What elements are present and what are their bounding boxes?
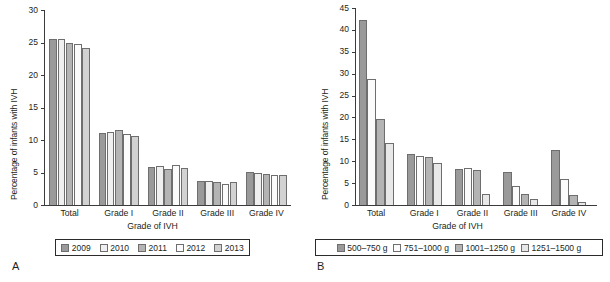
- y-tick-label: 0: [333, 201, 349, 209]
- bar: [473, 170, 481, 205]
- x-category-label: Total: [352, 208, 400, 218]
- bar: [156, 166, 164, 205]
- bar: [205, 181, 213, 205]
- legend-label: 2013: [225, 243, 244, 253]
- bar: [569, 195, 577, 205]
- bar: [66, 43, 74, 205]
- figure-two-panel-bar-charts: Percentage of infants with IVH 051015202…: [0, 0, 610, 282]
- bar: [503, 172, 511, 205]
- bar: [578, 202, 586, 205]
- bar: [131, 136, 139, 205]
- plot-area-a: [45, 10, 291, 205]
- bar: [164, 169, 172, 205]
- bar-group: [455, 8, 490, 205]
- bar: [367, 79, 375, 205]
- bar: [246, 172, 254, 205]
- y-tick-label: 30: [22, 6, 38, 14]
- legend-label: 2011: [149, 243, 167, 253]
- bar: [512, 186, 520, 205]
- legend-item: 1001–1250 g: [455, 243, 515, 253]
- bar: [521, 194, 529, 205]
- y-tick-label: 5: [333, 179, 349, 187]
- legend-label: 1001–1250 g: [465, 243, 515, 253]
- bar: [482, 194, 490, 205]
- legend-swatch: [455, 244, 463, 252]
- y-tick-label: 20: [22, 71, 38, 79]
- y-tick-label: 15: [333, 135, 349, 143]
- bar: [385, 143, 393, 205]
- legend-swatch: [100, 244, 108, 252]
- bar: [99, 133, 107, 205]
- legend-item: 2011: [138, 243, 167, 253]
- bar: [58, 39, 66, 205]
- x-category-label: Grade II: [448, 208, 496, 218]
- x-category-label: Grade III: [193, 208, 242, 218]
- bar-group: [407, 8, 442, 205]
- bar: [181, 168, 189, 205]
- legend-swatch: [61, 244, 69, 252]
- legend-swatch: [138, 244, 146, 252]
- x-category-label: Total: [45, 208, 94, 218]
- x-axis-line-b: [355, 205, 597, 206]
- bar: [416, 156, 424, 205]
- bar: [551, 150, 559, 205]
- panel-a: Percentage of infants with IVH 051015202…: [0, 0, 305, 282]
- bar: [49, 39, 57, 205]
- legend-label: 2012: [186, 243, 205, 253]
- x-category-label: Grade II: [143, 208, 192, 218]
- bar-group: [197, 10, 237, 205]
- x-axis-line-a: [44, 205, 291, 206]
- bar: [82, 48, 90, 205]
- plot-area-b: [356, 8, 597, 205]
- bar: [148, 167, 156, 205]
- legend-item: 2012: [176, 243, 205, 253]
- y-tick-label: 40: [333, 25, 349, 33]
- legend-item: 2010: [100, 243, 129, 253]
- y-tick-label: 0: [22, 201, 38, 209]
- bar: [279, 175, 287, 205]
- bar: [359, 20, 367, 205]
- x-category-label: Grade IV: [242, 208, 291, 218]
- bar: [376, 119, 384, 205]
- bar: [530, 199, 538, 205]
- x-category-label: Grade IV: [545, 208, 593, 218]
- bar: [425, 157, 433, 205]
- legend-swatch: [521, 244, 529, 252]
- bar-group: [551, 8, 586, 205]
- legend-item: 751–1000 g: [393, 243, 448, 253]
- legend-swatch: [337, 244, 345, 252]
- legend-label: 2010: [110, 243, 129, 253]
- bar: [123, 134, 131, 205]
- panel-label-b: B: [317, 260, 324, 272]
- bar-group: [49, 10, 89, 205]
- legend-a: 20092010201120122013: [55, 239, 250, 256]
- panel-b: Percentage of infants with IVH 051015202…: [305, 0, 610, 282]
- bar: [172, 165, 180, 205]
- legend-item: 500–750 g: [337, 243, 388, 253]
- bar-group: [148, 10, 188, 205]
- y-tick-label: 35: [333, 47, 349, 55]
- bar: [560, 179, 568, 205]
- bar: [222, 184, 230, 205]
- bar: [197, 181, 205, 205]
- x-category-label: Grade I: [400, 208, 448, 218]
- y-tick-label: 15: [22, 103, 38, 111]
- y-axis-title-a: Percentage of infants with IVH: [9, 89, 19, 200]
- y-tick-label: 10: [22, 136, 38, 144]
- bar-group: [359, 8, 394, 205]
- x-category-label: Grade III: [497, 208, 545, 218]
- bar: [464, 168, 472, 205]
- bar: [107, 132, 115, 205]
- y-tick-label: 25: [22, 38, 38, 46]
- bar: [455, 169, 463, 205]
- legend-item: 1251–1500 g: [521, 243, 581, 253]
- y-tick-label: 10: [333, 157, 349, 165]
- x-category-label: Grade I: [94, 208, 143, 218]
- y-tick-label: 20: [333, 113, 349, 121]
- legend-swatch: [176, 244, 184, 252]
- bar: [115, 130, 123, 205]
- bar: [254, 173, 262, 206]
- y-tick-label: 25: [333, 91, 349, 99]
- y-axis-title-b: Percentage of infants with IVH: [320, 89, 330, 200]
- bar-group: [246, 10, 286, 205]
